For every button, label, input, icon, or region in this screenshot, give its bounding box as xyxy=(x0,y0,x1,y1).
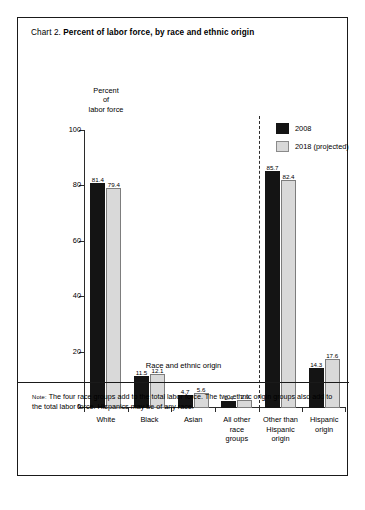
y-axis-caption-line-2: of xyxy=(70,95,142,104)
bar-value-label: 81.4 xyxy=(92,176,104,183)
chart-title-main: Percent of labor force, by race and ethn… xyxy=(63,28,254,37)
bar: 85.7 xyxy=(265,171,280,408)
chart-title-prefix: Chart 2. xyxy=(31,28,61,37)
bar-value-label: 85.7 xyxy=(266,164,278,171)
x-axis-category-label-line: Other than xyxy=(257,415,305,425)
x-axis-category-label-line: Asian xyxy=(169,415,217,425)
x-axis-category-label-line: Hispanic xyxy=(257,425,305,435)
bar: 79.4 xyxy=(106,188,121,408)
note-label: Note: xyxy=(32,394,47,400)
y-axis-caption: Percent of labor force xyxy=(70,86,142,114)
y-axis-caption-line-1: Percent xyxy=(70,86,142,95)
bar-value-label: 79.4 xyxy=(108,181,120,188)
x-axis-title: Race and ethnic origin xyxy=(18,361,349,370)
x-axis-category-label: All otherracegroups xyxy=(213,415,261,444)
x-axis-category-label: White xyxy=(82,415,130,425)
bar: 82.4 xyxy=(281,180,296,408)
x-axis-category-label: Asian xyxy=(169,415,217,425)
x-axis-category-label-line: White xyxy=(82,415,130,425)
chart-note: Note: The four race groups add to the to… xyxy=(32,392,335,413)
y-axis-tick-label: 80 xyxy=(73,180,81,189)
x-axis-category-label-line: groups xyxy=(213,434,261,444)
x-axis-category-label-line: Hispanic xyxy=(300,415,348,425)
x-axis-category-label-line: Black xyxy=(126,415,174,425)
x-axis-category-label: Hispanicorigin xyxy=(300,415,348,434)
y-axis-caption-line-3: labor force xyxy=(70,105,142,114)
x-axis-tick-mark xyxy=(345,408,346,412)
y-axis-tick-label: 60 xyxy=(73,236,81,245)
x-axis-category-label-line: race xyxy=(213,425,261,435)
x-axis-category-label: Black xyxy=(126,415,174,425)
x-axis-category-label-line: origin xyxy=(257,434,305,444)
y-axis-tick-label: 100 xyxy=(69,125,81,134)
y-axis-tick-label: 20 xyxy=(73,347,81,356)
page-title: Chart 2. Percent of labor force, by race… xyxy=(31,28,254,37)
bar-value-label: 17.6 xyxy=(326,352,338,359)
x-axis-category-label: Other thanHispanicorigin xyxy=(257,415,305,444)
note-text: The four race groups add to the total la… xyxy=(32,392,332,411)
chart-panel: Chart 2. Percent of labor force, by race… xyxy=(17,17,348,476)
note-divider xyxy=(18,382,349,383)
x-axis-category-label-line: All other xyxy=(213,415,261,425)
bar: 81.4 xyxy=(90,183,105,408)
y-axis-tick-label: 40 xyxy=(73,291,81,300)
x-axis-category-label-line: origin xyxy=(300,425,348,435)
bar-value-label: 11.5 xyxy=(136,369,148,376)
bar-value-label: 82.4 xyxy=(282,173,294,180)
